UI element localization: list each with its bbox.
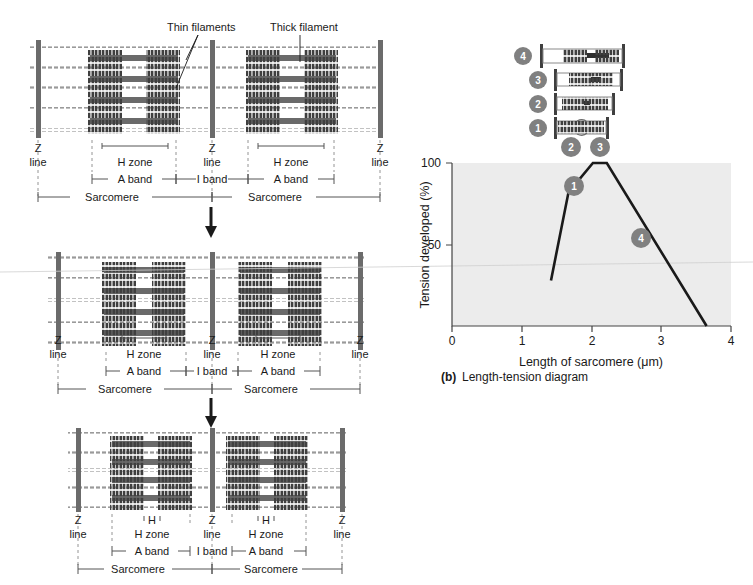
z-label: Z <box>339 514 346 526</box>
thick-filaments-right-3 <box>226 436 308 510</box>
a-band-label: A band <box>249 545 283 557</box>
z-label: Z <box>209 334 216 346</box>
z-label: Z <box>209 142 216 154</box>
x-tick-label-3: 3 <box>658 334 665 348</box>
z-line-label: line <box>49 348 66 360</box>
z-label: Z <box>209 514 216 526</box>
sarcomere-icon-3: 3 <box>529 69 623 91</box>
sarcomere-label: Sarcomere <box>111 563 165 575</box>
transition-arrow-2 <box>205 398 217 428</box>
h-zone-label: H zone <box>127 348 162 360</box>
z-label: Z <box>357 334 364 346</box>
sarcomere-label: Sarcomere <box>85 191 139 203</box>
sarcomere-label: Sarcomere <box>244 383 298 395</box>
a-band-label: A band <box>127 365 161 377</box>
i-band-label: I band <box>197 545 228 557</box>
z-label: Z <box>35 142 42 154</box>
marker-number: 4 <box>638 233 644 244</box>
sarcomere-label: Sarcomere <box>244 563 298 575</box>
x-tick-label-4: 4 <box>728 334 735 348</box>
z-line-label: line <box>69 528 86 540</box>
marker-number: 1 <box>571 181 577 192</box>
z-label: Z <box>55 334 62 346</box>
i-band-label: I band <box>197 365 228 377</box>
sarcomere-panel-optimal: Z line Z line Z line H zone H zone A ban… <box>48 252 369 395</box>
z-line-label: line <box>203 528 220 540</box>
curve-marker-2: 2 <box>561 137 581 157</box>
thick-filaments-right-2 <box>238 262 322 346</box>
z-line-label: line <box>29 156 46 168</box>
icon-number: 4 <box>520 51 526 62</box>
thick-filaments-left-2 <box>102 262 186 346</box>
z-line-label: line <box>333 528 350 540</box>
panel-caption: Length-tension diagram <box>462 370 588 384</box>
y-tick-label-100: 100 <box>421 156 441 170</box>
z-line-label: line <box>203 156 220 168</box>
y-axis-title: Tension developed (%) <box>418 181 432 308</box>
a-band-label: A band <box>274 173 308 185</box>
sarcomere-icon-1: 1 <box>529 117 609 139</box>
z-label: Z <box>377 142 384 154</box>
a-band-label: A band <box>135 545 169 557</box>
sarcomere-label: Sarcomere <box>98 383 152 395</box>
thick-filaments-right-1 <box>246 50 338 134</box>
a-band-label: A band <box>118 173 152 185</box>
i-band-label: I band <box>197 173 228 185</box>
marker-number: 3 <box>597 142 603 153</box>
curve-marker-4: 4 <box>631 228 651 248</box>
z-line-label: line <box>203 348 220 360</box>
figure-root: Thin filaments Thick filament Z line Z l… <box>0 0 753 585</box>
transition-arrow-1 <box>205 207 217 238</box>
icon-number: 2 <box>535 99 541 110</box>
a-band-label: A band <box>261 365 295 377</box>
z-line-label: line <box>351 348 368 360</box>
marker-number: 2 <box>568 142 574 153</box>
h-mark-label: H <box>262 514 270 526</box>
y-ticks <box>446 163 452 245</box>
h-mark-label: H <box>148 514 156 526</box>
figure-svg: Thin filaments Thick filament Z line Z l… <box>0 0 753 585</box>
x-axis-title: Length of sarcomere (μm) <box>519 355 663 369</box>
x-tick-label-1: 1 <box>519 334 526 348</box>
z-line-label: line <box>371 156 388 168</box>
z-label: Z <box>75 514 82 526</box>
z-line-label-group-1: Z line Z line Z line <box>29 142 388 168</box>
plot-background <box>452 163 731 326</box>
curve-marker-3: 3 <box>590 137 610 157</box>
h-zone-label: H zone <box>135 528 170 540</box>
h-zone-label: H zone <box>249 528 284 540</box>
sarcomere-panel-stretched: Thin filaments Thick filament Z line Z l… <box>28 21 389 203</box>
sarcomere-icon-4: 4 <box>514 44 625 68</box>
x-tick-label-2: 2 <box>589 334 596 348</box>
sarcomere-icon-2: 2 <box>529 93 615 115</box>
x-ticks <box>452 326 731 332</box>
sarcomere-panel-contracted: Z line Z line Z line H H H zone H zone A… <box>68 428 351 575</box>
callout-thin-filaments: Thin filaments <box>167 21 236 33</box>
thick-filaments-left-1 <box>88 50 180 134</box>
callout-thick-filament: Thick filament <box>270 21 338 33</box>
curve-marker-1: 1 <box>564 176 584 196</box>
panel-caption-prefix: (b) <box>441 370 456 384</box>
thick-filaments-left-3 <box>110 436 192 510</box>
sarcomere-label: Sarcomere <box>248 191 302 203</box>
x-tick-label-0: 0 <box>449 334 456 348</box>
h-zone-label: H zone <box>261 348 296 360</box>
h-zone-label: H zone <box>274 156 309 168</box>
h-zone-label: H zone <box>118 156 153 168</box>
icon-number: 3 <box>535 75 541 86</box>
icon-number: 1 <box>535 123 541 134</box>
